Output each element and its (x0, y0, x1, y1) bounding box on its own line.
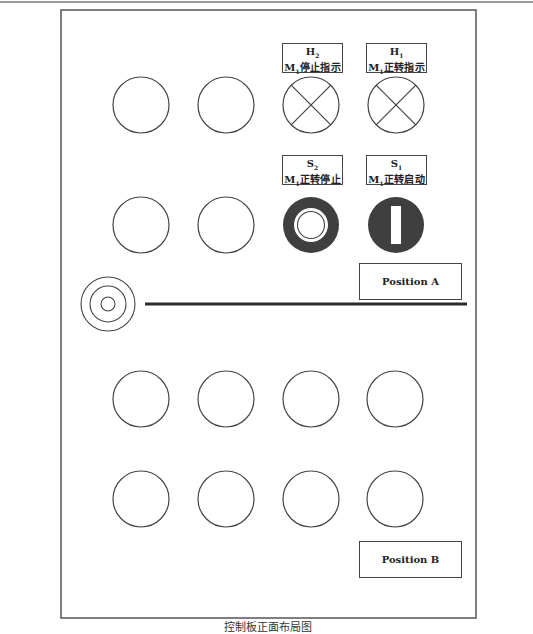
indicator-lamp-h1-icon (368, 77, 424, 133)
concentric-target-icon (81, 277, 135, 331)
label-s1: S1 M1正转启动 (366, 155, 427, 185)
label-s1-code: S1 (367, 158, 426, 173)
start-button-s1-icon (368, 197, 424, 253)
empty-slot-r4c2 (198, 471, 254, 527)
indicator-lamp-h2-icon (283, 77, 339, 133)
empty-slot-r4c3 (283, 471, 339, 527)
empty-slot-r4c4 (367, 471, 423, 527)
label-s1-desc: M1正转启动 (367, 173, 426, 190)
empty-slot-r3c1 (113, 371, 169, 427)
label-s2-code: S2 (283, 158, 342, 173)
position-b-box: Position B (359, 541, 462, 578)
empty-slot-r2c1 (113, 197, 169, 253)
position-b-label: Position B (382, 554, 440, 565)
empty-slot-r4c1 (113, 471, 169, 527)
label-h1-desc: M1正转指示 (367, 61, 426, 78)
stop-button-s2-icon (283, 197, 339, 253)
empty-slot-r3c3 (283, 371, 339, 427)
position-a-box: Position A (359, 263, 462, 300)
diagram-caption: 控制板正面布局图 (222, 618, 314, 634)
label-h2: H2 M1停止指示 (282, 43, 343, 73)
label-s2-desc: M1正转停止 (283, 173, 342, 190)
empty-slot-r1c2 (198, 77, 254, 133)
empty-slot-r2c2 (198, 197, 254, 253)
label-h1: H1 M1正转指示 (366, 43, 427, 73)
empty-slot-r3c4 (367, 371, 423, 427)
label-h2-desc: M1停止指示 (283, 61, 342, 78)
position-a-label: Position A (382, 276, 439, 287)
label-h1-code: H1 (367, 46, 426, 61)
label-s2: S2 M1正转停止 (282, 155, 343, 185)
empty-slot-r1c1 (113, 77, 169, 133)
label-h2-code: H2 (283, 46, 342, 61)
empty-slot-r3c2 (198, 371, 254, 427)
